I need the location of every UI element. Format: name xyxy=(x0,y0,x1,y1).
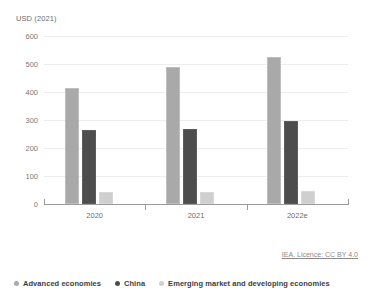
bar xyxy=(301,191,315,204)
legend-divider xyxy=(10,268,360,269)
legend-swatch-icon xyxy=(115,281,120,286)
chart-legend: Advanced economiesChinaEmerging market a… xyxy=(14,279,330,288)
x-axis-tick-label: 2022e xyxy=(287,211,308,220)
axis-group-tick xyxy=(145,205,146,210)
legend-item[interactable]: Emerging market and developing economies xyxy=(159,279,330,288)
bar xyxy=(99,192,113,204)
y-axis-tick-label: 100 xyxy=(8,172,38,181)
axis-end-cap xyxy=(348,199,349,205)
legend-item[interactable]: Advanced economies xyxy=(14,279,101,288)
y-axis-tick-labels: 0100200300400500600 xyxy=(6,36,38,204)
legend-swatch-icon xyxy=(159,281,164,286)
x-axis-line xyxy=(44,204,348,205)
y-axis-tick-label: 200 xyxy=(8,144,38,153)
y-axis-tick-label: 0 xyxy=(8,200,38,209)
x-axis-tick-label: 2020 xyxy=(86,211,103,220)
iea-licence-credit[interactable]: IEA. Licence: CC BY 4.0 xyxy=(282,251,358,258)
bar xyxy=(200,192,214,204)
x-axis-tick-label: 2021 xyxy=(188,211,205,220)
bars-layer xyxy=(44,36,348,204)
legend-label: Advanced economies xyxy=(23,279,101,288)
legend-swatch-icon xyxy=(14,281,19,286)
y-axis-tick-label: 600 xyxy=(8,32,38,41)
axis-group-tick xyxy=(247,205,248,210)
bar-chart: USD (2021) 0100200300400500600 202020212… xyxy=(0,0,370,296)
bar xyxy=(183,129,197,204)
bar xyxy=(166,67,180,204)
legend-item[interactable]: China xyxy=(115,279,145,288)
legend-label: China xyxy=(124,279,145,288)
x-axis-tick-labels: 202020212022e xyxy=(44,211,348,225)
y-axis-tick-label: 500 xyxy=(8,60,38,69)
bar xyxy=(267,57,281,204)
y-axis-title: USD (2021) xyxy=(16,14,57,23)
bar xyxy=(82,130,96,204)
y-axis-tick-label: 300 xyxy=(8,116,38,125)
y-axis-tick-label: 400 xyxy=(8,88,38,97)
bar xyxy=(65,88,79,204)
bar xyxy=(284,121,298,204)
legend-label: Emerging market and developing economies xyxy=(168,279,330,288)
